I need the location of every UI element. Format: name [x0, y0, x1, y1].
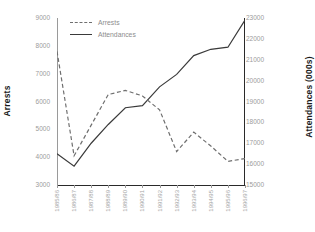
x-tick-label-1990-91: 1990/91 [139, 190, 145, 212]
legend-item-attendances: Attendances [70, 31, 136, 38]
axis-line-bottom [57, 185, 245, 186]
legend-item-arrests: Arrests [70, 19, 120, 26]
series-line-arrests [57, 51, 245, 161]
y-tick-right-19000: 19000 [246, 98, 276, 105]
x-tick-label-1996-97: 1996/97 [242, 190, 248, 212]
x-tick-label-1991-92: 1991/92 [157, 190, 163, 212]
x-tick-mark-10 [228, 185, 229, 188]
chart-container: Arrests Attendances (000s) 3000400050006… [0, 0, 315, 232]
x-tick-label-1989-90: 1989/90 [122, 190, 128, 212]
x-tick-mark-5 [142, 185, 143, 188]
x-tick-label-1995-96: 1995/96 [225, 190, 231, 212]
y-tick-right-22000: 22000 [246, 35, 276, 42]
x-tick-label-1985-86: 1985/86 [54, 190, 60, 212]
y-tick-left-5000: 5000 [22, 125, 50, 132]
y-tick-right-21000: 21000 [246, 56, 276, 63]
x-tick-mark-2 [91, 185, 92, 188]
y-axis-title-right: Attendances (000s) [304, 56, 314, 138]
y-tick-left-9000: 9000 [22, 14, 50, 21]
x-tick-label-1994-95: 1994/95 [208, 190, 214, 212]
x-tick-mark-4 [125, 185, 126, 188]
y-tick-left-8000: 8000 [22, 42, 50, 49]
series-line-attendances [57, 20, 245, 166]
y-tick-right-23000: 23000 [246, 14, 276, 21]
x-tick-mark-1 [74, 185, 75, 188]
legend-label-arrests: Arrests [98, 19, 120, 26]
x-tick-mark-8 [194, 185, 195, 188]
series-plot-area [57, 18, 245, 185]
y-tick-right-20000: 20000 [246, 77, 276, 84]
x-tick-mark-7 [177, 185, 178, 188]
y-axis-ticks-right: 1500016000170001800019000200002100022000… [246, 0, 280, 232]
y-tick-left-7000: 7000 [22, 70, 50, 77]
legend-swatch-solid-icon [70, 34, 92, 35]
x-tick-mark-9 [211, 185, 212, 188]
x-tick-label-1986-87: 1986/87 [71, 190, 77, 212]
legend-label-attendances: Attendances [98, 31, 136, 38]
x-tick-mark-3 [108, 185, 109, 188]
y-tick-left-4000: 4000 [22, 153, 50, 160]
y-tick-right-15000: 15000 [246, 181, 276, 188]
x-tick-label-1988-89: 1988/89 [105, 190, 111, 212]
y-tick-right-18000: 18000 [246, 118, 276, 125]
y-tick-right-16000: 16000 [246, 160, 276, 167]
y-tick-left-6000: 6000 [22, 98, 50, 105]
x-tick-mark-0 [57, 185, 58, 188]
x-tick-label-1992-93: 1992/93 [174, 190, 180, 212]
y-axis-ticks-left: 3000400050006000700080009000 [20, 0, 50, 232]
x-tick-mark-11 [245, 185, 246, 188]
x-tick-label-1987-88: 1987/88 [88, 190, 94, 212]
legend-swatch-dashed-icon [70, 22, 92, 23]
x-tick-label-1993-94: 1993/94 [191, 190, 197, 212]
y-tick-left-3000: 3000 [22, 181, 50, 188]
y-axis-title-left: Arrests [2, 85, 12, 116]
y-tick-right-17000: 17000 [246, 139, 276, 146]
x-tick-mark-6 [160, 185, 161, 188]
